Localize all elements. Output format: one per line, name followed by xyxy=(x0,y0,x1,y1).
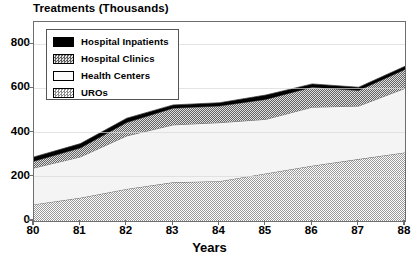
x-axis-tick-label: 85 xyxy=(250,224,280,236)
legend-item-hospital-clinics: Hospital Clinics xyxy=(53,52,155,65)
legend-item-uros: UROs xyxy=(53,86,108,99)
legend-label: Health Centers xyxy=(81,71,150,81)
x-axis-tick-label: 84 xyxy=(204,224,234,236)
legend-label: Hospital Inpatients xyxy=(81,37,169,47)
y-axis-tick-mark xyxy=(28,43,33,44)
legend-label: Hospital Clinics xyxy=(81,54,155,64)
x-axis-tick-label: 86 xyxy=(296,224,326,236)
chart-title: Treatments (Thousands) xyxy=(33,2,169,14)
legend-swatch-health-centers xyxy=(53,71,74,81)
legend-swatch-hospital-clinics xyxy=(53,54,74,64)
chart-legend: Hospital Inpatients Hospital Clinics Hea… xyxy=(46,29,179,100)
legend-item-hospital-inpatients: Hospital Inpatients xyxy=(53,35,169,48)
legend-swatch-hospital-inpatients xyxy=(53,37,74,47)
y-axis-tick-label: 200 xyxy=(2,169,30,181)
x-axis-tick-label: 87 xyxy=(343,224,373,236)
x-axis-tick-label: 83 xyxy=(157,224,187,236)
y-axis-tick-mark xyxy=(28,219,33,220)
x-axis-tick-label: 80 xyxy=(18,224,48,236)
legend-label: UROs xyxy=(81,88,108,98)
x-axis-title: Years xyxy=(0,240,419,255)
y-axis-tick-mark xyxy=(28,175,33,176)
y-axis-tick-mark xyxy=(28,131,33,132)
x-axis-tick-label: 88 xyxy=(389,224,419,236)
y-axis-tick-label: 600 xyxy=(2,80,30,92)
y-axis-tick-label: 800 xyxy=(2,36,30,48)
chart-root: Treatments (Thousands) 800 600 400 200 0 xyxy=(0,0,419,266)
legend-swatch-uros xyxy=(53,88,74,98)
y-axis-tick-label: 400 xyxy=(2,125,30,137)
y-axis-tick-mark xyxy=(28,87,33,88)
x-axis-tick-label: 82 xyxy=(111,224,141,236)
x-axis-tick-label: 81 xyxy=(64,224,94,236)
legend-item-health-centers: Health Centers xyxy=(53,69,150,82)
